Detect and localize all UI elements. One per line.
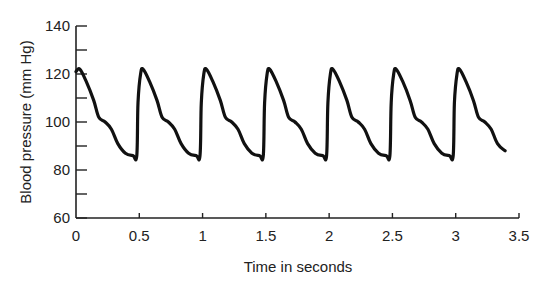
x-tick-label: 1.5: [255, 227, 276, 244]
y-tick-label: 80: [53, 161, 70, 178]
x-tick-label: 2.5: [382, 227, 403, 244]
x-axis-title: Time in seconds: [244, 258, 353, 275]
x-tick-label: 0.5: [129, 227, 150, 244]
x-tick-label: 3: [452, 227, 460, 244]
blood-pressure-chart: 6080100120140 00.511.522.533.5 Time in s…: [0, 0, 553, 292]
y-axis: 6080100120140: [45, 17, 87, 226]
blood-pressure-waveform: [76, 69, 505, 160]
y-tick-label: 140: [45, 17, 70, 34]
y-tick-label: 60: [53, 209, 70, 226]
y-tick-label: 100: [45, 113, 70, 130]
x-tick-label: 1: [198, 227, 206, 244]
x-tick-label: 3.5: [509, 227, 530, 244]
x-tick-label: 0: [72, 227, 80, 244]
x-tick-label: 2: [325, 227, 333, 244]
x-axis: 00.511.522.533.5: [72, 213, 530, 244]
y-tick-label: 120: [45, 65, 70, 82]
y-axis-title: Blood pressure (mm Hg): [17, 40, 34, 203]
